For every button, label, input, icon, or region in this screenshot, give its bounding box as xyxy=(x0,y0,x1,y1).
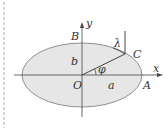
y-axis-arrow-icon xyxy=(80,22,84,28)
y-axis-label: y xyxy=(85,17,93,30)
ellipse-diagram: y B λ C b x φ O a A xyxy=(0,0,168,130)
x-axis-label: x xyxy=(153,62,160,75)
phi-label: φ xyxy=(98,63,106,76)
origin-o-label: O xyxy=(73,79,82,92)
semi-minor-b-label: b xyxy=(71,55,78,68)
point-a-label: A xyxy=(142,79,151,92)
point-b-label: B xyxy=(70,30,79,43)
lambda-label: λ xyxy=(113,37,121,50)
point-c-label: C xyxy=(133,48,142,61)
diagram-canvas: y B λ C b x φ O a A xyxy=(0,0,168,130)
semi-major-a-label: a xyxy=(108,79,115,92)
